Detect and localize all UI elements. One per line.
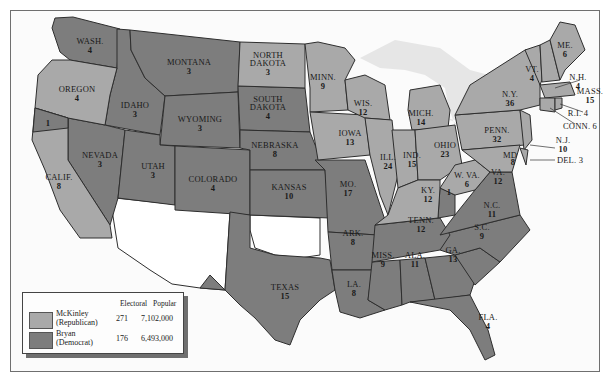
legend-row-mckinley: McKinley(Republican) 271 7,102,000 (29, 310, 179, 330)
svg-text:N.J.10: N.J.10 (556, 135, 571, 154)
legend: Electoral Popular McKinley(Republican) 2… (22, 292, 184, 354)
candidate-party: (Republican) (56, 318, 98, 327)
popular-votes: 6,493,000 (141, 334, 173, 343)
popular-votes: 7,102,000 (141, 314, 173, 323)
state-fla (410, 295, 495, 360)
democrat-swatch (29, 332, 53, 349)
republican-swatch (29, 312, 53, 329)
electoral-votes: 271 (116, 314, 128, 323)
legend-header-popular: Popular (153, 299, 176, 308)
svg-text:CONN. 6: CONN. 6 (563, 121, 597, 131)
svg-text:R.I. 4: R.I. 4 (568, 108, 589, 118)
svg-text:MASS.15: MASS.15 (577, 86, 603, 105)
svg-text:1: 1 (46, 118, 50, 128)
legend-header-electoral: Electoral (120, 299, 147, 308)
candidate-party: (Democrat) (56, 338, 93, 347)
state-nebraska (240, 130, 325, 170)
legend-row-bryan: Bryan(Democrat) 176 6,493,000 (29, 330, 179, 350)
electoral-votes: 176 (116, 334, 128, 343)
svg-text:DEL. 3: DEL. 3 (557, 155, 583, 165)
state-mass (540, 82, 575, 98)
svg-text:1: 1 (447, 187, 451, 197)
state-del (520, 148, 528, 165)
